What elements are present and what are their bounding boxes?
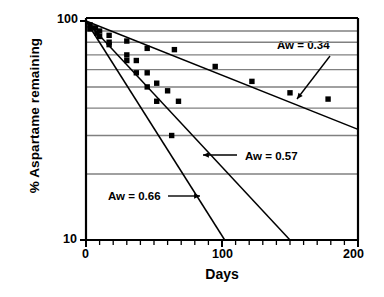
axes <box>80 18 358 247</box>
marker-0-4 <box>124 38 129 43</box>
marker-1-5 <box>145 70 150 75</box>
marker-1-7 <box>165 88 170 93</box>
marker-2-4 <box>134 70 139 75</box>
fit-line-2 <box>86 21 225 240</box>
plot-canvas <box>0 0 384 297</box>
marker-0-6 <box>172 47 177 52</box>
marker-0-7 <box>213 64 218 69</box>
annotation-arrows <box>168 56 330 199</box>
marker-0-8 <box>249 79 254 84</box>
marker-0-3 <box>106 33 111 38</box>
marker-0-9 <box>287 90 292 95</box>
marker-1-3 <box>124 52 129 57</box>
marker-2-6 <box>154 99 159 104</box>
chart-figure: % Aspartame remaining Days 100 10 0 100 … <box>0 0 384 297</box>
marker-0-10 <box>325 96 330 101</box>
marker-2-7 <box>169 133 174 138</box>
fit-line-1 <box>86 21 290 240</box>
marker-1-6 <box>154 80 159 85</box>
marker-2-2 <box>106 42 111 47</box>
marker-2-5 <box>145 84 150 89</box>
marker-1-8 <box>176 99 181 104</box>
marker-1-4 <box>134 58 139 63</box>
marker-2-1 <box>97 34 102 39</box>
marker-0-5 <box>145 46 150 51</box>
fit-line-0 <box>86 21 358 129</box>
marker-2-3 <box>124 58 129 63</box>
marker-2-0 <box>87 26 92 31</box>
